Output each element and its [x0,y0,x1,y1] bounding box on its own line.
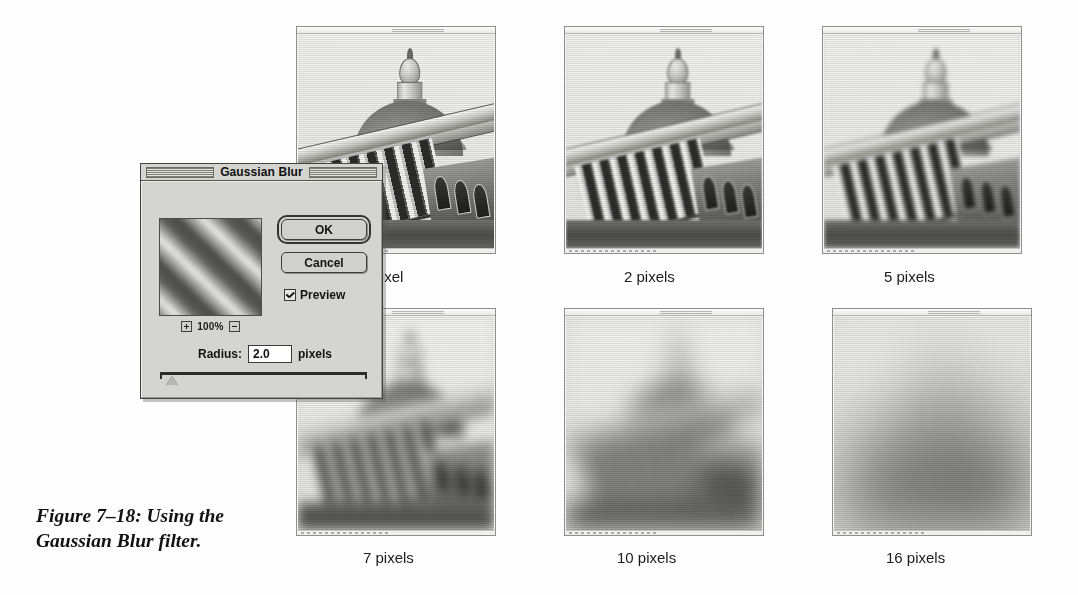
zoom-out-icon[interactable] [229,321,240,332]
building-photo [824,35,1020,248]
cancel-button[interactable]: Cancel [281,252,367,273]
scanned-page-background: 1 pixel 2 pixels 5 pixels 7 pixels 10 pi… [0,0,1078,595]
slider-thumb[interactable] [166,376,178,385]
radius-label: Radius: [198,347,242,361]
gaussian-blur-dialog: Gaussian Blur 100% OK Cancel Preview Rad… [140,163,383,399]
dialog-title: Gaussian Blur [215,165,308,179]
zoom-level-label: 100% [197,321,223,332]
sample-label-7-pixels: 7 pixels [363,549,414,566]
dialog-body: 100% OK Cancel Preview Radius: 2.0 pixel… [141,181,382,398]
sample-titlebar [833,309,1031,316]
building-base [566,502,762,530]
sample-window-2-pixels [564,26,764,254]
sample-window-5-pixels [822,26,1022,254]
sample-canvas [566,35,762,248]
cupola-bulb [667,58,689,84]
cupola-bulb [925,58,947,84]
sample-statusbar [566,248,762,253]
radius-slider[interactable] [160,372,367,388]
sample-canvas [834,317,1030,530]
slider-track[interactable] [160,372,367,375]
radius-units-label: pixels [298,347,332,361]
dialog-titlebar[interactable]: Gaussian Blur [141,164,382,181]
titlebar-stripes-right [309,167,377,178]
sample-titlebar [823,27,1021,34]
zoom-in-icon[interactable] [181,321,192,332]
building-photo [566,317,762,530]
ok-button[interactable]: OK [281,219,367,240]
building-base [824,220,1020,248]
radius-row: Radius: 2.0 pixels [159,345,368,363]
building-base [834,502,1030,530]
sample-label-2-pixels: 2 pixels [624,268,675,285]
cupola-bulb [935,340,957,366]
sample-titlebar [297,27,495,34]
building-base [566,220,762,248]
sample-window-16-pixels [832,308,1032,536]
sample-label-5-pixels: 5 pixels [884,268,935,285]
titlebar-stripes-left [146,167,214,178]
sample-statusbar [298,530,494,535]
preview-checkbox[interactable] [284,289,296,301]
sample-titlebar [565,27,763,34]
sample-titlebar [565,309,763,316]
preview-image [159,218,262,316]
radius-input[interactable]: 2.0 [248,345,292,363]
cupola-bulb [667,340,689,366]
sample-statusbar [566,530,762,535]
figure-caption: Figure 7–18: Using the Gaussian Blur fil… [36,503,282,553]
preview-thumbnail[interactable] [159,218,262,316]
sample-window-10-pixels [564,308,764,536]
sample-canvas [824,35,1020,248]
sample-statusbar [834,530,1030,535]
cupola-bulb [399,58,421,84]
sample-label-16-pixels: 16 pixels [886,549,945,566]
sample-label-10-pixels: 10 pixels [617,549,676,566]
building-photo [566,35,762,248]
sample-canvas [566,317,762,530]
building-base [298,502,494,530]
cupola-bulb [399,340,421,366]
sample-statusbar [824,248,1020,253]
preview-checkbox-row[interactable]: Preview [284,288,345,302]
building-photo [834,317,1030,530]
zoom-controls: 100% [159,321,262,332]
preview-checkbox-label: Preview [300,288,345,302]
